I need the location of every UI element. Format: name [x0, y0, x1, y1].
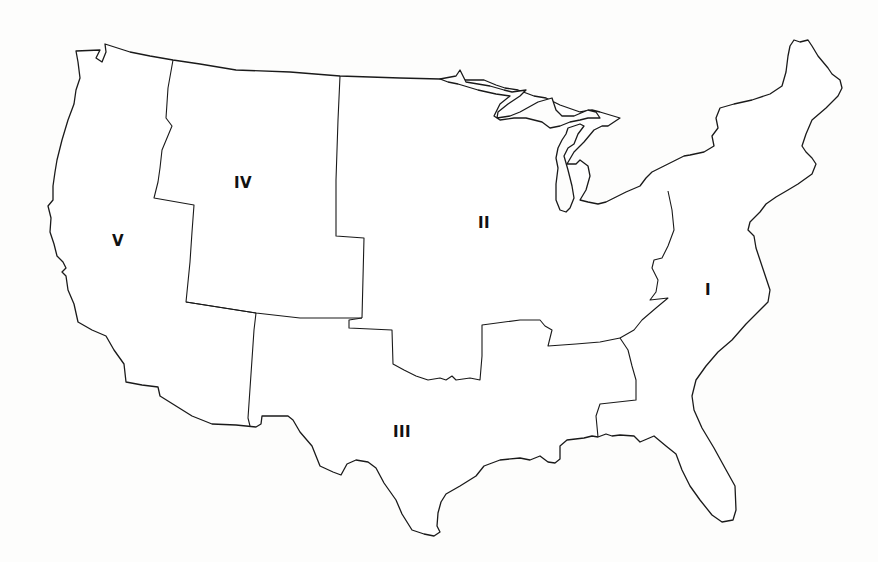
us-outline	[48, 40, 842, 536]
region-label-ii: II	[478, 216, 490, 231]
region-label-i: I	[705, 283, 711, 298]
region-label-v: V	[112, 234, 124, 249]
map-canvas	[0, 0, 878, 562]
region-label-iii: III	[393, 425, 411, 440]
us-regions-map: I II III IV V	[0, 0, 878, 562]
region-label-iv: IV	[234, 176, 252, 191]
